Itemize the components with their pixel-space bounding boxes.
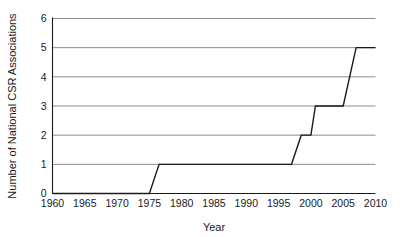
x-tick-label: 2005: [332, 197, 356, 209]
y-axis-title: Number of National CSR Associations: [6, 13, 18, 199]
x-tick-label: 1980: [170, 197, 194, 209]
x-tick-label: 1960: [41, 197, 65, 209]
y-tick-label: 3: [41, 100, 47, 112]
x-tick-label: 1970: [105, 197, 129, 209]
y-tick-labels: 0123456: [41, 12, 47, 199]
y-tick-label: 2: [41, 129, 47, 141]
x-tick-label: 2000: [299, 197, 323, 209]
y-tick-label: 5: [41, 41, 47, 53]
y-tick-label: 1: [41, 158, 47, 170]
data-series-group: [53, 48, 376, 194]
x-tick-label: 1965: [73, 197, 97, 209]
data-line-national-csr-associations: [53, 48, 376, 194]
x-tick-label: 1990: [235, 197, 259, 209]
x-axis-title: Year: [203, 221, 226, 233]
y-tick-label: 6: [41, 12, 47, 24]
y-tick-label: 4: [41, 71, 47, 83]
chart-container: 0123456 19601965197019751980198519901995…: [0, 0, 402, 237]
x-tick-labels: 1960196519701975198019851990199520002005…: [41, 197, 388, 209]
x-tick-label: 1995: [267, 197, 291, 209]
x-tick-label: 1985: [202, 197, 226, 209]
x-tick-label: 2010: [364, 197, 388, 209]
x-tick-label: 1975: [138, 197, 162, 209]
line-chart: 0123456 19601965197019751980198519901995…: [0, 0, 402, 237]
